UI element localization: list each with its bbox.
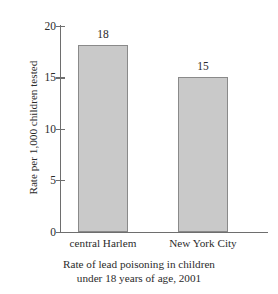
- category-label-central-harlem: central Harlem: [48, 238, 158, 249]
- chart-caption: Rate of lead poisoning in children under…: [0, 258, 278, 285]
- y-tick-mark-20: [56, 26, 65, 27]
- y-tick-mark-15: [56, 77, 65, 78]
- y-tick-mark-5: [56, 180, 65, 181]
- caption-line-2: under 18 years of age, 2001: [0, 272, 278, 286]
- y-axis-title: Rate per 1,000 children tested: [28, 23, 39, 233]
- y-tick-mark-0: [56, 232, 65, 233]
- bar-value-new-york-city: 15: [173, 61, 233, 73]
- bar-chart-figure: 0 5 10 15 20 18 15 central Harlem New Yo…: [0, 0, 278, 294]
- y-tick-mark-10: [56, 129, 65, 130]
- plot-area: 0 5 10 15 20 18 15 central Harlem New Yo…: [0, 0, 278, 294]
- bar-central-harlem: [78, 45, 128, 231]
- bar-value-central-harlem: 18: [73, 29, 133, 41]
- bar-new-york-city: [178, 77, 228, 232]
- caption-line-1: Rate of lead poisoning in children: [0, 258, 278, 272]
- category-label-new-york-city: New York City: [148, 238, 258, 249]
- x-axis-line: [60, 232, 268, 233]
